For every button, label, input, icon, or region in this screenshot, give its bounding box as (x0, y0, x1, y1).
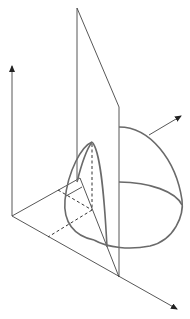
diagram-canvas (0, 0, 190, 319)
hemisphere (94, 127, 182, 248)
diagonal-axis (12, 216, 177, 309)
normal-vector (149, 116, 181, 135)
diagram-svg (0, 0, 190, 319)
